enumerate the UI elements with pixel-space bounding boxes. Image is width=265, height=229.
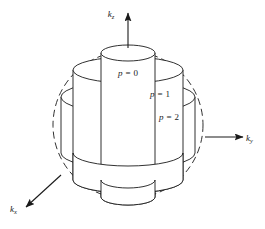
level-label-p2: p=2 [158, 112, 179, 122]
level-label-p1: p=1 [149, 89, 170, 99]
landau-level-figure: p=0 p=1 p=2 kz ky kx [0, 0, 265, 229]
kx-axis-label: kx [10, 204, 17, 215]
kx-axis-arrow [26, 175, 61, 207]
kz-axis-label: kz [108, 9, 115, 20]
landau-level-diagram: p=0 p=1 p=2 kz ky kx [0, 0, 265, 229]
level-label-p0: p=0 [117, 68, 139, 78]
ky-axis-label: ky [246, 133, 253, 144]
